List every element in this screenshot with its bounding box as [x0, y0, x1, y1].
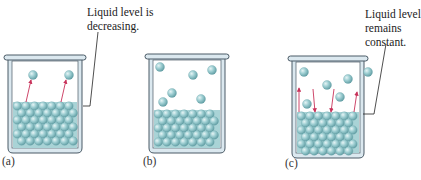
liquid-molecule	[197, 138, 206, 147]
liquid-molecule	[188, 138, 197, 147]
panel-a	[4, 32, 98, 153]
liquid-molecule	[301, 147, 310, 156]
beaker-rim	[4, 55, 86, 60]
vapor-molecule	[303, 100, 312, 109]
liquid-c	[297, 112, 359, 156]
panel-c	[288, 44, 386, 158]
liquid-molecule	[336, 147, 345, 156]
vaporization-diagram	[0, 0, 421, 180]
leader-line-c	[363, 44, 386, 114]
panel-b	[145, 54, 229, 153]
vapor-molecule	[168, 89, 177, 98]
liquid-a	[13, 102, 77, 148]
vapor-molecule	[336, 93, 345, 102]
vapor-molecule	[364, 68, 373, 77]
vapor-molecule	[323, 81, 332, 90]
beaker-rim	[288, 56, 368, 61]
panel-label-a: (a)	[2, 155, 15, 167]
vapor-molecule	[156, 63, 165, 72]
callout-c: Liquid level remains constant.	[365, 7, 421, 49]
liquid-molecule	[69, 137, 78, 146]
liquid-molecule	[310, 147, 319, 156]
liquid-molecule	[43, 137, 52, 146]
vapor-molecule	[344, 75, 353, 84]
leader-line-a	[83, 32, 98, 106]
liquid-molecule	[319, 147, 328, 156]
beaker-rim	[145, 54, 229, 59]
liquid-molecule	[154, 138, 163, 147]
callout-a: Liquid level is decreasing.	[87, 5, 153, 33]
liquid-molecule	[171, 138, 180, 147]
liquid-molecule	[206, 138, 215, 147]
vapor-molecule	[65, 71, 74, 80]
vapor-molecule	[208, 66, 217, 75]
vapor-molecule	[189, 71, 198, 80]
liquid-molecule	[60, 137, 69, 146]
panel-label-b: (b)	[143, 155, 156, 167]
liquid-molecule	[327, 147, 336, 156]
liquid-molecule	[180, 138, 189, 147]
liquid-b	[154, 110, 220, 148]
panel-label-c: (c)	[285, 157, 298, 169]
liquid-molecule	[52, 137, 61, 146]
liquid-molecule	[17, 137, 26, 146]
liquid-molecule	[163, 138, 172, 147]
vapor-molecule	[29, 71, 38, 80]
vapor-molecule	[197, 95, 206, 104]
liquid-molecule	[344, 147, 353, 156]
vapor-molecule	[159, 98, 168, 107]
vapor-molecule	[300, 68, 309, 77]
liquid-molecule	[35, 137, 44, 146]
liquid-molecule	[26, 137, 35, 146]
